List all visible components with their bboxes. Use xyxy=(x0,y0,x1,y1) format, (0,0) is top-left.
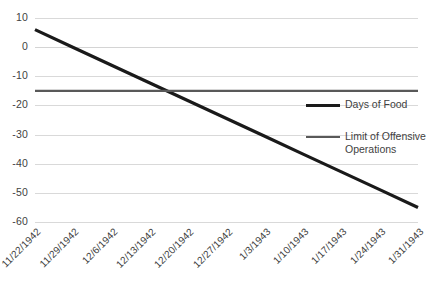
y-tick-label: -60 xyxy=(0,215,28,227)
y-tick-label: -40 xyxy=(0,157,28,169)
chart-container: 100-10-20-30-40-50-60 11/22/194211/29/19… xyxy=(0,0,438,284)
legend-label: Days of Food xyxy=(345,98,407,112)
y-tick-label: 0 xyxy=(0,40,28,52)
legend-swatch-icon xyxy=(306,136,340,138)
y-tick-label: -50 xyxy=(0,186,28,198)
y-tick-label: -30 xyxy=(0,128,28,140)
y-tick-label: -20 xyxy=(0,98,28,110)
chart-legend: Days of FoodLimit of Offensive Operation… xyxy=(306,98,438,175)
legend-swatch-icon xyxy=(306,104,340,107)
legend-entry[interactable]: Limit of Offensive Operations xyxy=(306,130,438,157)
y-tick-label: -10 xyxy=(0,69,28,81)
legend-label: Limit of Offensive Operations xyxy=(345,130,437,157)
legend-entry[interactable]: Days of Food xyxy=(306,98,438,112)
y-tick-label: 10 xyxy=(0,11,28,23)
x-axis: 11/22/194211/29/194212/6/194212/13/19421… xyxy=(35,222,418,284)
